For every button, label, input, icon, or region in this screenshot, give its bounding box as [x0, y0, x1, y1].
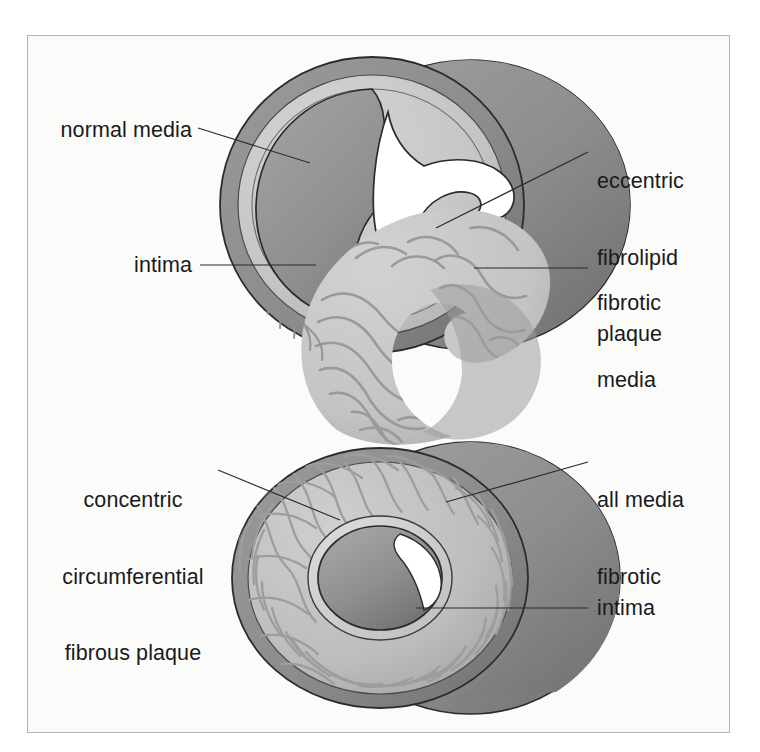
bottom-vessel-group: [218, 442, 620, 714]
label-normal-media: normal media: [40, 118, 192, 144]
diagram-canvas: normal media intima eccentric fibrolipid…: [0, 0, 760, 752]
label-line: all media: [597, 488, 749, 514]
label-line: media: [597, 368, 749, 394]
label-line: circumferential: [52, 565, 214, 591]
label-line: eccentric: [597, 169, 749, 195]
label-line: fibrotic: [597, 565, 749, 591]
label-line: fibrotic: [597, 291, 749, 317]
label-line: concentric: [52, 488, 214, 514]
label-intima-top: intima: [92, 253, 192, 279]
label-line: fibrous plaque: [52, 641, 214, 667]
top-vessel-group: [198, 57, 630, 447]
label-fibrotic-media: fibrotic media: [597, 240, 749, 444]
label-intima-bottom: intima: [597, 596, 749, 622]
label-concentric-circumferential-fibrous-plaque: concentric circumferential fibrous plaqu…: [52, 437, 214, 718]
